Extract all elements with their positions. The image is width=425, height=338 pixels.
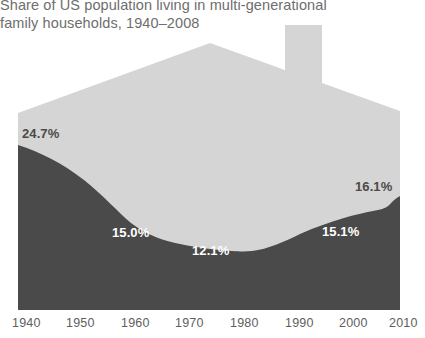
x-axis-tick-1980: 1980 <box>230 316 259 330</box>
chart-page: Share of US population living in multi-g… <box>0 0 425 338</box>
data-label-1940: 24.7% <box>22 126 59 141</box>
house-area-chart-svg <box>0 0 425 310</box>
x-axis-tick-1960: 1960 <box>121 316 150 330</box>
x-axis-tick-2000: 2000 <box>339 316 368 330</box>
chimney-notch-shape <box>282 25 285 70</box>
data-label-1960: 15.0% <box>112 225 149 240</box>
x-axis-tick-1940: 1940 <box>12 316 41 330</box>
x-axis-tick-1970: 1970 <box>175 316 204 330</box>
chart-plot-area: 24.7% 15.0% 12.1% 15.1% 16.1% <box>0 0 425 310</box>
data-label-2010: 16.1% <box>355 179 392 194</box>
x-axis-tick-1990: 1990 <box>285 316 314 330</box>
x-axis-tick-2010: 2010 <box>389 316 418 330</box>
x-axis-tick-1950: 1950 <box>66 316 95 330</box>
data-label-2000: 15.1% <box>322 224 359 239</box>
data-label-1980: 12.1% <box>192 243 229 258</box>
